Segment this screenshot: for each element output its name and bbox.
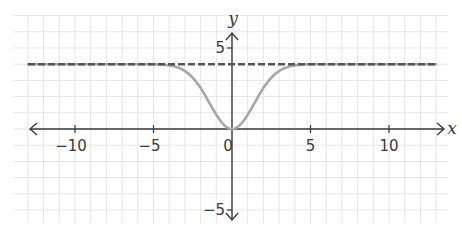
function-graph: −10−55105−50xy bbox=[0, 0, 462, 235]
x-tick-label: 10 bbox=[379, 137, 398, 155]
y-tick-label: 5 bbox=[215, 39, 225, 57]
x-tick-label: 5 bbox=[306, 137, 316, 155]
x-axis-label: x bbox=[447, 118, 457, 138]
y-tick-label: −5 bbox=[203, 201, 225, 219]
x-tick-label: −5 bbox=[138, 137, 160, 155]
y-axis-label: y bbox=[227, 8, 238, 28]
origin-label: 0 bbox=[223, 137, 233, 155]
x-tick-label: −10 bbox=[55, 137, 87, 155]
grid bbox=[13, 15, 448, 223]
tick-labels: −10−55105−50xy bbox=[55, 8, 457, 219]
